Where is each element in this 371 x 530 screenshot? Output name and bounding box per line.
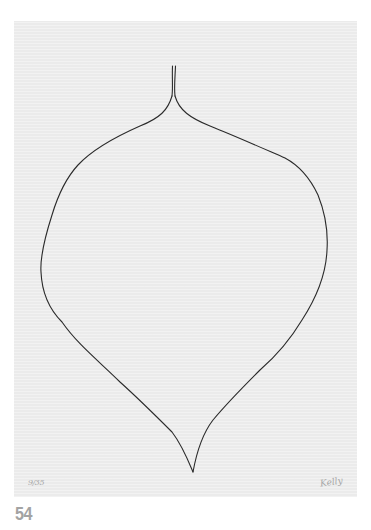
edition-number: 9/35 bbox=[28, 478, 44, 487]
leaf-line-drawing bbox=[0, 0, 371, 530]
page-number: 54 bbox=[15, 503, 32, 525]
